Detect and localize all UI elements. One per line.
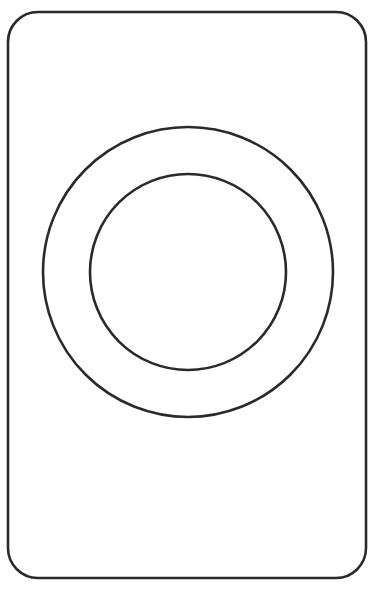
line-art-figure: [0, 0, 374, 590]
drawing-canvas: [0, 0, 374, 590]
rounded-rectangle-outline: [8, 12, 366, 578]
